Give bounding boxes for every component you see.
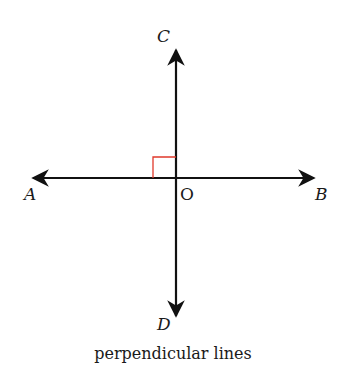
label-a: A xyxy=(24,186,36,203)
label-d: D xyxy=(157,316,171,333)
right-angle-marker xyxy=(153,157,176,178)
label-c: C xyxy=(157,28,170,45)
perpendicular-lines-figure xyxy=(0,0,346,372)
label-o: O xyxy=(180,186,194,203)
label-b: B xyxy=(315,186,328,203)
figure-caption: perpendicular lines xyxy=(0,344,346,363)
